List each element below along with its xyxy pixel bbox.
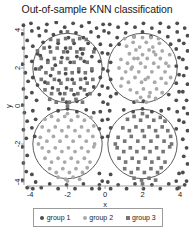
svg-text:0: 0 [103,190,107,199]
svg-text:-4: -4 [13,179,22,186]
legend-item-group-1[interactable]: group 1 [40,214,70,221]
chart-container: Out-of-sample KNN classification -4-2024… [0,0,194,234]
legend-label-group-1: group 1 [47,214,71,221]
svg-text:4: 4 [13,28,22,32]
svg-text:-4: -4 [27,190,34,199]
svg-text:0: 0 [13,104,22,108]
svg-text:2: 2 [140,190,144,199]
legend-label-group-3: group 3 [132,214,156,221]
legend-item-group-3[interactable]: group 3 [126,214,156,221]
svg-text:4: 4 [178,190,182,199]
chart-legend: group 1 group 2 group 3 [33,208,163,227]
svg-text:-2: -2 [64,190,71,199]
scatter-plot: -4-2024-4-2024xy [0,0,194,234]
svg-text:2: 2 [13,66,22,70]
legend-marker-group-1-icon [40,216,44,220]
svg-text:y: y [4,104,13,108]
legend-label-group-2: group 2 [89,214,113,221]
legend-item-group-2[interactable]: group 2 [83,214,113,221]
legend-marker-group-3-icon [126,216,130,220]
legend-marker-group-2-icon [83,216,87,220]
svg-text:-2: -2 [13,141,22,148]
